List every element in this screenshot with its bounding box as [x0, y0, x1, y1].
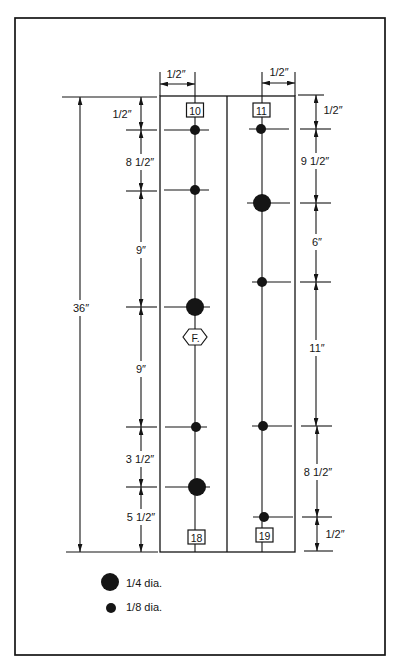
hole-small-dot-icon — [259, 512, 269, 522]
right-spacing-label-3: 6″ — [312, 236, 322, 248]
tag-10: 10 — [187, 103, 204, 117]
left-bottom-tag: 18 — [191, 532, 203, 544]
left-spacing-label-5: 3 1/2″ — [126, 453, 154, 465]
tag-19: 19 — [256, 528, 273, 542]
left-top-tag: 10 — [189, 105, 201, 117]
right-spacing-label-6: 1/2″ — [325, 528, 344, 540]
right-column-width-dimension: 1/2″ — [262, 66, 295, 83]
hole-small-dot-icon — [190, 185, 200, 195]
left-spacing-label-6: 5 1/2″ — [127, 511, 155, 523]
right-bottom-tag: 19 — [259, 530, 271, 542]
legend-label-large: 1/4 dia. — [126, 577, 162, 589]
left-spacing-label-1: 1/2″ — [112, 108, 131, 120]
hole-small-dot-icon — [256, 124, 266, 134]
legend-large-dot-icon — [101, 573, 119, 591]
legend-small-dot-icon — [106, 603, 116, 613]
legend: 1/4 dia. 1/8 dia. — [101, 573, 162, 613]
right-spacing-label-2: 9 1/2″ — [301, 155, 329, 167]
hole-small-dot-icon — [190, 125, 200, 135]
left-width-label: 1/2″ — [166, 68, 185, 80]
hole-small-dot-icon — [258, 421, 268, 431]
hole-large-dot-icon — [253, 194, 271, 212]
hole-small-dot-icon — [191, 422, 201, 432]
tag-11: 11 — [253, 103, 270, 117]
overall-length-label: 36″ — [73, 302, 89, 314]
left-spacing-label-2: 8 1/2″ — [126, 156, 154, 168]
hole-small-dot-icon — [257, 277, 267, 287]
right-spacing-label-5: 8 1/2″ — [304, 466, 332, 478]
tag-18: 18 — [188, 530, 205, 544]
marker-f: F. — [183, 329, 207, 345]
right-spacing-label-1: 1/2″ — [323, 104, 342, 116]
right-spacing-dimensions: 1/2″ 9 1/2″ 6″ 11″ 8 1/2″ 1/2″ — [298, 95, 345, 551]
right-width-label: 1/2″ — [269, 66, 288, 78]
right-column-holes — [247, 124, 293, 522]
marker-label: F. — [191, 332, 199, 344]
legend-item-large: 1/4 dia. — [101, 573, 162, 591]
left-spacing-dimensions: 1/2″ 8 1/2″ 9″ 9″ 3 1/2″ 5 1/2″ — [112, 97, 159, 552]
right-top-tag: 11 — [256, 105, 267, 117]
hole-large-dot-icon — [188, 478, 206, 496]
right-spacing-label-4: 11″ — [309, 342, 324, 354]
left-spacing-label-4: 9″ — [136, 363, 146, 375]
left-column-width-dimension: 1/2″ — [160, 68, 195, 84]
legend-item-small: 1/8 dia. — [106, 601, 162, 613]
left-column-holes — [164, 125, 210, 496]
drilling-diagram: 1/2″ 1/2″ 36″ 1/2″ 8 1/2″ 9″ 9″ 3 1/2″ — [0, 0, 397, 662]
left-spacing-label-3: 9″ — [136, 244, 146, 256]
hole-large-dot-icon — [186, 298, 204, 316]
board-outline — [160, 96, 295, 552]
legend-label-small: 1/8 dia. — [126, 601, 162, 613]
